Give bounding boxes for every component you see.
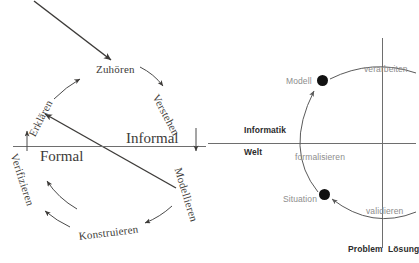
quadrant-label-informatik: Informatik <box>244 125 286 135</box>
arc-konstruieren-to-verifizieren <box>45 211 70 227</box>
arrow-into-zuhoeren <box>34 1 111 60</box>
arc-modellieren-to-konstruieren <box>145 206 172 223</box>
transition-label-validieren: validieren <box>366 206 403 216</box>
arc-erklaeren-to-zuhoeren <box>54 79 80 99</box>
arc-formalisieren <box>300 91 318 192</box>
point-label-modell: Modell <box>286 76 312 86</box>
arc-verifizieren-to-erklaeren <box>47 181 77 209</box>
point-label-situation: Situation <box>283 194 317 204</box>
point-situation-dot <box>319 189 330 200</box>
axis-label-informal: Informal <box>126 130 178 147</box>
point-modell-dot <box>317 75 328 86</box>
transition-label-formalisieren: formalisieren <box>295 152 345 162</box>
arc-zuhoeren-to-verstehen <box>140 67 163 86</box>
quadrant-label-loesung: Lösung <box>388 244 419 254</box>
axis-label-formal: Formal <box>40 148 83 165</box>
quadrant-label-welt: Welt <box>244 147 262 157</box>
transition-label-verarbeiten: verarbeiten <box>364 64 408 74</box>
node-label-zuhoeren: Zuhören <box>96 63 135 75</box>
quadrant-label-problem: Problem <box>348 244 383 254</box>
